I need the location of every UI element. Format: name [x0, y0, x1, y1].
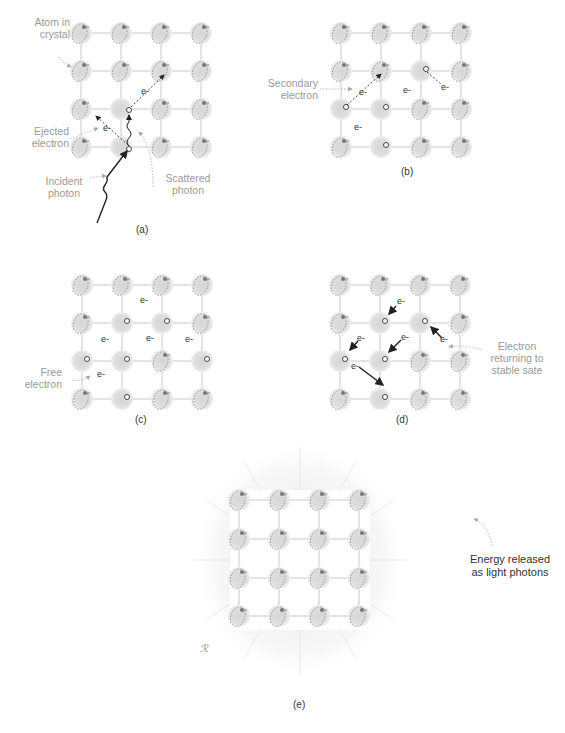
label-electron-returning: Electron returning to stable sate [482, 340, 552, 376]
svg-text:e-: e- [140, 295, 148, 305]
artist-mark: ℛ [200, 643, 209, 654]
panel-b: e- e- e- e- [320, 22, 472, 160]
svg-text:e-: e- [403, 85, 411, 95]
caption-a: (a) [136, 224, 148, 235]
panel-c: e- e- e- e- e- [71, 274, 213, 412]
incident-photon-arrow [97, 151, 127, 223]
label-atom-in-crystal: Atom in crystal [18, 16, 70, 40]
caption-e: (e) [293, 699, 305, 710]
svg-text:e-: e- [354, 122, 362, 132]
label-free-electron: Free electron [14, 366, 62, 390]
caption-b: (b) [401, 166, 413, 177]
svg-text:e-: e- [359, 87, 367, 97]
svg-text:e-: e- [401, 332, 409, 342]
svg-text:e-: e- [146, 333, 154, 343]
svg-text:e-: e- [101, 334, 109, 344]
svg-text:e-: e- [141, 86, 149, 96]
label-secondary-electron: Secondary electron [256, 77, 318, 101]
label-energy-released: Energy released as light photons [462, 553, 558, 579]
svg-text:e-: e- [185, 334, 193, 344]
caption-c: (c) [135, 414, 147, 425]
svg-text:e-: e- [351, 361, 359, 371]
svg-text:e-: e- [97, 369, 105, 379]
label-ejected-electron: Ejected electron [14, 125, 69, 149]
svg-text:e-: e- [397, 296, 405, 306]
diagram-canvas: e- e- [0, 0, 565, 733]
panel-e: ℛ [192, 442, 492, 678]
panel-d: e- e- e- e- e- [329, 274, 482, 412]
svg-text:e-: e- [357, 333, 365, 343]
svg-text:e-: e- [441, 82, 449, 92]
caption-d: (d) [396, 414, 408, 425]
svg-text:e-: e- [103, 123, 111, 133]
label-scattered-photon: Scattered photon [158, 172, 218, 196]
svg-text:e-: e- [440, 334, 448, 344]
label-incident-photon: Incident photon [38, 175, 90, 199]
